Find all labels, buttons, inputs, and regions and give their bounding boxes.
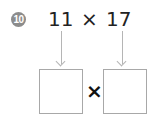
- answer-multiply-sign: ×: [86, 79, 103, 103]
- left-operand: 11: [48, 6, 73, 32]
- answer-box-left[interactable]: [39, 69, 83, 114]
- right-operand: 17: [106, 6, 131, 32]
- arrowhead-right-icon: [117, 57, 127, 67]
- arrowhead-left-icon: [56, 57, 66, 67]
- problem-number-badge: 10: [11, 12, 26, 27]
- multiply-sign: ×: [81, 6, 98, 32]
- answer-box-right[interactable]: [103, 69, 147, 114]
